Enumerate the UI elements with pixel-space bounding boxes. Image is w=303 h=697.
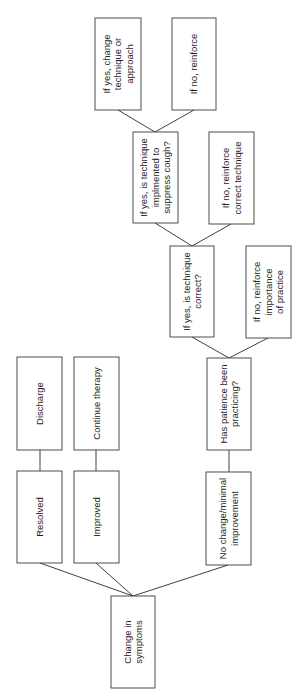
node-label-line: No change/minimal	[217, 478, 228, 559]
node-label-line: implmented to	[150, 148, 161, 208]
node-label-line: correct technique	[232, 142, 243, 215]
node-label-line: approach	[124, 44, 135, 84]
node-label-line: If yes, change	[101, 34, 112, 93]
connector-change-to-nochange	[133, 565, 228, 596]
node-discharge: Discharge	[17, 357, 62, 450]
node-label: Continue therapy	[91, 367, 102, 440]
node-label-line: Has patience been	[218, 364, 229, 443]
node-label: If no, reinforce	[188, 34, 199, 95]
node-improved: Improved	[74, 471, 119, 563]
node-label: If no, reinforceimportanceof practice	[251, 262, 285, 323]
node-nochange: No change/minimalimprovement	[206, 472, 251, 565]
node-resolved: Resolved	[17, 471, 62, 563]
node-label-line: If no, reinforce	[220, 148, 231, 209]
node-label-line: If yes, is technique	[181, 252, 192, 331]
nodes: Change insymptomsResolvedImprovedDischar…	[17, 18, 291, 688]
connector-implemented-to-change_technique	[118, 110, 155, 132]
node-label-line: Change in	[122, 620, 133, 663]
flowchart: Change insymptomsResolvedImprovedDischar…	[0, 0, 303, 697]
node-label: Improved	[91, 497, 102, 537]
node-implemented: If yes, is techniqueimplmented tosuppres…	[133, 132, 178, 223]
connector-change-to-improved	[96, 563, 133, 596]
node-label-line: If no, reinforce	[188, 34, 199, 95]
node-label-line: importance	[263, 269, 274, 316]
node-change: Change insymptoms	[111, 596, 155, 688]
node-practicing: Has patience beenpracticing?	[207, 358, 251, 450]
node-change_technique: If yes, changetechnique orapproach	[95, 18, 141, 110]
node-continue: Continue therapy	[74, 357, 119, 450]
connector-practicing-to-importance	[229, 338, 268, 358]
node-correct: If yes, is techniquecorrect?	[170, 246, 214, 337]
node-label-line: Discharge	[34, 382, 45, 425]
node-importance: If no, reinforceimportanceof practice	[246, 246, 291, 338]
connector-implemented-to-reinforce	[155, 110, 194, 132]
node-label: Change insymptoms	[122, 620, 145, 664]
node-label-line: technique or	[112, 38, 123, 90]
node-label: Discharge	[34, 382, 45, 425]
node-label-line: Resolved	[34, 497, 45, 537]
node-label-line: If yes, is technique	[138, 138, 149, 217]
node-label-line: suppress cough?	[161, 141, 172, 213]
node-label-line: practicing?	[229, 381, 240, 427]
node-label: If no, reinforcecorrect technique	[220, 142, 243, 215]
node-label-line: of practice	[274, 270, 285, 314]
node-reinforce_technique: If no, reinforcecorrect technique	[209, 132, 254, 224]
node-label-line: correct?	[192, 274, 203, 308]
node-label-line: Improved	[91, 497, 102, 537]
node-label-line: improvement	[229, 491, 240, 546]
connector-change-to-resolved	[40, 563, 133, 596]
node-label-line: symptoms	[133, 620, 144, 664]
node-label-line: If no, reinforce	[251, 262, 262, 323]
connector-correct-to-reinforce_technique	[192, 224, 231, 246]
node-label-line: Continue therapy	[91, 367, 102, 440]
connector-correct-to-implemented	[155, 223, 192, 246]
node-reinforce: If no, reinforce	[172, 18, 216, 110]
node-label: Resolved	[34, 497, 45, 537]
node-label: If yes, is techniqueimplmented tosuppres…	[138, 138, 172, 217]
connector-practicing-to-correct	[192, 337, 229, 358]
